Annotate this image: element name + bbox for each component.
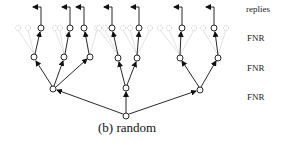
reply-arrows bbox=[33, 7, 214, 25]
row-label-fnr-1: FNR bbox=[247, 33, 265, 43]
row-label-replies: replies bbox=[246, 4, 270, 14]
faded-nodes bbox=[15, 25, 228, 30]
root-node bbox=[123, 113, 129, 119]
faded-edges bbox=[18, 30, 226, 55]
row-label-fnr-3: FNR bbox=[247, 92, 265, 102]
figure-caption: (b) random bbox=[98, 120, 156, 136]
row-label-fnr-2: FNR bbox=[247, 63, 265, 73]
